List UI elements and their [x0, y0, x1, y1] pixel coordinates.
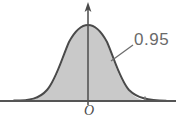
shaded-area-under-curve [15, 25, 145, 101]
normal-distribution-figure: 0.95 O [0, 0, 176, 122]
probability-label: 0.95 [134, 31, 169, 48]
label-leader-line [111, 45, 133, 61]
origin-label: O [84, 104, 94, 118]
